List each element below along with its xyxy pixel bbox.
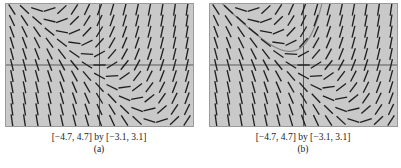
slope-segment (173, 48, 176, 60)
slope-segment (106, 85, 117, 90)
slope-segment (377, 4, 379, 16)
slope-segment (376, 82, 380, 93)
slope-segment (286, 27, 294, 36)
slope-segment (236, 17, 245, 25)
slope-segment (35, 92, 38, 104)
slope-segment (214, 70, 216, 82)
slope-segment (339, 26, 342, 38)
slope-segment (83, 15, 89, 25)
slope-segment (145, 82, 152, 92)
slope-segment (260, 18, 272, 22)
slope-segment (108, 104, 114, 114)
slope-segment (326, 37, 331, 48)
slope-segment (323, 73, 333, 80)
slope-segment (109, 26, 114, 37)
slope-segment (186, 26, 188, 38)
slope-segment (134, 48, 139, 59)
panel-a-caption: [−4.7, 4.7] by [−3.1, 3.1] (1, 131, 197, 143)
slope-segment (84, 4, 89, 15)
slope-segment (377, 26, 379, 38)
slope-segment (214, 37, 218, 49)
slope-segment (227, 70, 230, 82)
slope-segment (248, 28, 258, 36)
slope-segment (312, 49, 320, 58)
slope-segment (35, 70, 38, 82)
slope-segment (285, 40, 296, 45)
slope-segment (22, 48, 26, 60)
slope-segment (36, 114, 38, 126)
slope-segment (225, 15, 232, 25)
slope-segment (352, 15, 355, 27)
slope-segment (235, 8, 247, 12)
plot-area-b (209, 3, 398, 127)
slope-segment (85, 115, 88, 126)
slope-segment (339, 4, 342, 15)
slope-segment (146, 71, 152, 82)
slope-segment (173, 37, 175, 49)
slope-segment (183, 115, 190, 125)
slope-segment (309, 76, 321, 77)
slope-segment (289, 115, 292, 126)
slope-segment (360, 119, 372, 123)
slope-segment (348, 94, 358, 102)
slope-segment (389, 48, 391, 60)
slope-segment (224, 5, 233, 13)
slope-segment (108, 49, 116, 58)
slope-segment (352, 26, 355, 38)
slope-segment (56, 18, 68, 22)
slope-segment (264, 115, 267, 126)
slope-segment (80, 54, 92, 55)
panel-b-caption: [−4.7, 4.7] by [−3.1, 3.1] (205, 131, 401, 143)
slope-segment (261, 5, 270, 13)
slope-segment (108, 37, 114, 48)
slope-segment (226, 48, 230, 60)
slope-segment (185, 48, 187, 60)
slope-segment (171, 93, 176, 104)
slope-segment (288, 4, 293, 15)
slope-segment (72, 82, 77, 93)
slope-segment (81, 40, 92, 45)
slope-segment (132, 84, 142, 91)
slope-segment (84, 104, 88, 116)
slope-segment (375, 104, 382, 114)
slope-segment (375, 93, 380, 104)
slope-segment (237, 27, 244, 37)
slope-segment (264, 92, 267, 104)
slope-segment (23, 103, 25, 115)
slope-segment (57, 39, 67, 46)
slope-segment (363, 70, 367, 81)
slope-segment (336, 84, 346, 91)
slope-segment (48, 92, 51, 104)
slope-field-svg-a (6, 4, 193, 126)
slope-segment (252, 92, 255, 104)
slope-segment (185, 37, 187, 49)
slope-segment (390, 14, 392, 26)
slope-segment (122, 26, 126, 38)
slope-segment (147, 48, 151, 60)
slope-segment (374, 116, 383, 124)
slope-segment (336, 116, 345, 124)
slope-segment (10, 37, 14, 49)
slope-segment (71, 71, 77, 82)
slope-segment (239, 70, 242, 82)
slope-segment (252, 114, 254, 126)
slope-segment (135, 4, 138, 15)
slope-segment (143, 108, 155, 111)
slope-segment (272, 42, 284, 44)
slope-segment (339, 37, 343, 49)
slope-segment (185, 81, 189, 93)
slope-segment (389, 37, 391, 49)
slope-segment (43, 19, 55, 22)
slope-segment (21, 15, 28, 25)
slope-segment (157, 105, 166, 113)
slope-segment (227, 103, 229, 115)
slope-segment (238, 37, 243, 48)
slope-segment (170, 116, 179, 124)
slope-segment (288, 93, 293, 104)
slope-segment (214, 92, 216, 104)
slope-segment (272, 29, 283, 34)
slope-segment (10, 92, 12, 104)
slope-segment (105, 76, 117, 77)
slope-segment (47, 70, 51, 82)
slope-segment (46, 49, 52, 60)
